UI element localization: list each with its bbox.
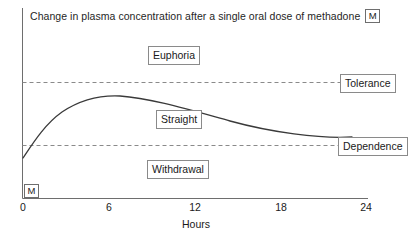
zone-label-withdrawal: Withdrawal bbox=[147, 160, 209, 179]
x-axis-title: Hours bbox=[182, 218, 210, 230]
plasma-concentration-figure: Change in plasma concentration after a s… bbox=[0, 0, 412, 235]
zone-label-euphoria: Euphoria bbox=[148, 46, 200, 65]
x-tick-12: 12 bbox=[189, 201, 201, 213]
zone-label-straight: Straight bbox=[156, 110, 202, 129]
x-tick-18: 18 bbox=[275, 201, 287, 213]
dose-marker-m: M bbox=[24, 184, 39, 198]
chart-canvas bbox=[0, 0, 412, 235]
x-tick-24: 24 bbox=[360, 201, 372, 213]
threshold-label-dependence: Dependence bbox=[338, 137, 408, 156]
x-tick-0: 0 bbox=[20, 201, 26, 213]
x-tick-6: 6 bbox=[106, 201, 112, 213]
threshold-label-tolerance: Tolerance bbox=[340, 74, 396, 93]
